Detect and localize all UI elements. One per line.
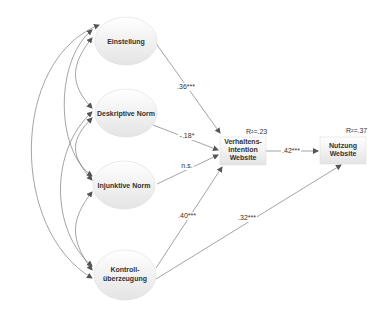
coef-kontroll-nutzung: .32*** [238, 214, 256, 221]
nutzung-label-line1: Nutzung [329, 142, 357, 150]
intention-label-line2: intention [228, 146, 258, 153]
node-verhaltensintention: Verhaltens- intention Website R²=.23 [220, 128, 267, 165]
coef-deskriptive-intention: -.18* [180, 132, 195, 139]
coef-einstellung-intention: .36*** [177, 83, 195, 90]
einstellung-label: Einstellung [107, 38, 145, 46]
deskriptive-norm-label: Deskriptive Norm [97, 110, 155, 118]
coef-injunktive-intention: n.s. [181, 162, 192, 169]
coef-intention-nutzung: .42*** [282, 147, 300, 154]
correlation-arcs [31, 25, 99, 278]
node-einstellung: Einstellung [95, 17, 157, 65]
node-kontrollueberzeugung: Kontroll- überzeugung [94, 250, 156, 300]
intention-label-line3: Website [230, 154, 257, 161]
kontroll-label-line2: überzeugung [103, 275, 147, 283]
node-injunktive-norm: Injunktive Norm [93, 161, 155, 209]
path-diagram: Einstellung Deskriptive Norm Injunktive … [0, 0, 385, 313]
injunktive-norm-label: Injunktive Norm [98, 182, 151, 190]
nutzung-label-line2: Website [330, 150, 357, 157]
node-deskriptive-norm: Deskriptive Norm [95, 89, 157, 137]
node-nutzung: Nutzung Website R²=.37 [320, 127, 367, 164]
intention-r2: R²=.23 [246, 128, 267, 135]
nutzung-r2: R²=.37 [346, 127, 367, 134]
coef-kontroll-intention: .40*** [178, 212, 196, 219]
kontroll-label-line1: Kontroll- [110, 266, 140, 273]
intention-label-line1: Verhaltens- [224, 138, 262, 145]
